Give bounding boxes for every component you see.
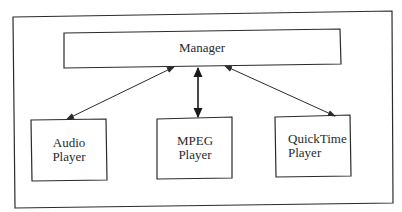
manager-label: Manager	[179, 40, 226, 55]
mpeg-player-label-line2: Player	[178, 147, 212, 162]
mpeg-player-label-line1: MPEG	[177, 133, 213, 148]
manager-node: Manager	[64, 29, 341, 68]
audio-player-node: Audio Player	[31, 119, 107, 181]
audio-player-label-line1: Audio	[53, 135, 86, 150]
quicktime-player-label-line2: Player	[288, 145, 322, 160]
diagram-canvas: Manager Audio Player MPEG Player QuickTi…	[0, 0, 402, 212]
quicktime-player-label-line1: QuickTime	[288, 131, 347, 146]
mpeg-player-node: MPEG Player	[157, 117, 232, 179]
audio-player-label-line2: Player	[52, 149, 86, 164]
quicktime-player-node: QuickTime Player	[275, 115, 351, 177]
